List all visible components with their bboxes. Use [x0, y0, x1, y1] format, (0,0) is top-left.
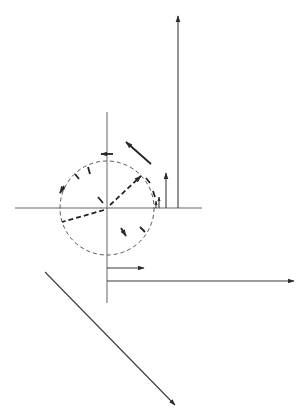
phasor-diagram [0, 0, 302, 416]
tick-arrow-lower-2 [140, 227, 145, 232]
tick-arrow-inner [98, 197, 103, 203]
radius-vector-left [62, 210, 104, 222]
tick-arrow-1 [75, 174, 79, 179]
radius-vector-upper-right [110, 176, 141, 205]
tick-arrow-left [60, 186, 64, 193]
diagonal-arrow [45, 272, 175, 405]
tick-arrow-lower-1 [121, 228, 126, 236]
tick-arrow-2 [88, 167, 90, 174]
velocity-arrow [126, 142, 151, 164]
tick-arrow-right-2 [153, 191, 155, 197]
